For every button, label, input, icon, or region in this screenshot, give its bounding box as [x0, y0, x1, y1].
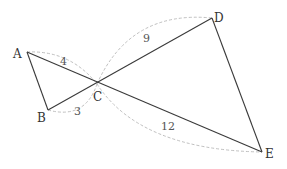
label-c: C — [93, 90, 102, 104]
length-cd: 9 — [143, 32, 150, 45]
label-b: B — [37, 111, 46, 125]
segment-de — [212, 18, 262, 152]
label-d: D — [214, 11, 224, 25]
segment-ab — [27, 52, 48, 110]
length-ac: 4 — [60, 55, 67, 68]
length-ce: 12 — [161, 120, 175, 133]
length-bc: 3 — [74, 105, 81, 118]
label-e: E — [265, 147, 274, 161]
geometry-diagram: A B C D E 4 3 9 12 — [0, 0, 287, 169]
arc-bc — [48, 84, 97, 112]
label-a: A — [12, 47, 22, 61]
